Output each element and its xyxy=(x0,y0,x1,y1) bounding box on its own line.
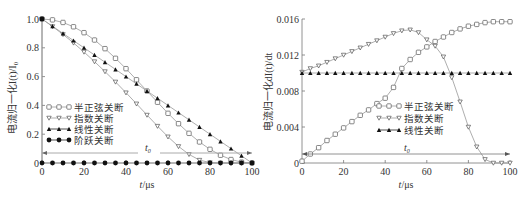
legend-label: 线性关断 xyxy=(74,124,114,135)
data-point-marker xyxy=(197,125,201,129)
data-point-marker xyxy=(239,161,244,166)
right-x-axis-label: t/μs xyxy=(399,179,414,190)
data-point-marker xyxy=(40,161,45,166)
data-point-marker xyxy=(441,55,445,59)
x-tick-label: 100 xyxy=(503,166,518,177)
data-point-marker xyxy=(366,108,370,112)
y-tick-label: 0.2 xyxy=(27,129,40,140)
data-point-marker xyxy=(450,30,454,34)
x-tick-label: 60 xyxy=(422,166,432,177)
legend-label: 指数关断 xyxy=(404,113,444,124)
data-point-marker xyxy=(218,161,223,166)
data-point-marker xyxy=(416,50,420,54)
data-point-marker xyxy=(155,100,159,104)
data-point-marker xyxy=(218,139,222,143)
x-tick-label: 0 xyxy=(300,166,305,177)
data-point-marker xyxy=(103,161,108,166)
data-point-marker xyxy=(57,138,62,143)
x-tick-label: 40 xyxy=(380,166,390,177)
data-point-marker xyxy=(197,161,202,166)
right-x-ticks: 020406080100 xyxy=(300,160,518,177)
data-point-marker xyxy=(450,76,454,80)
data-point-marker xyxy=(82,30,86,34)
data-point-marker xyxy=(441,35,445,39)
data-point-marker xyxy=(333,132,337,136)
right-t0-label: t0 xyxy=(404,142,410,154)
data-point-marker xyxy=(103,46,107,50)
y-tick-label: 0.016 xyxy=(277,14,300,25)
data-point-marker xyxy=(316,146,320,150)
left-y-axis-label: 电流归一化I(t)/I0 xyxy=(6,61,20,134)
right-legend: 半正弦关断指数关断线性关断 xyxy=(377,101,454,136)
data-point-marker xyxy=(50,161,55,166)
left-x-axis-label: t/μs xyxy=(140,179,155,190)
right-y-axis-label: 电流归一化dI(t)/dt xyxy=(262,53,275,132)
data-point-marker xyxy=(197,140,201,144)
data-point-marker xyxy=(145,161,150,166)
right-chart: 00.0040.0080.0120.016 020406080100 t0 半正… xyxy=(262,14,518,191)
data-point-marker xyxy=(124,66,128,70)
data-point-marker xyxy=(124,161,129,166)
data-point-marker xyxy=(103,60,107,64)
series-filled-triangle xyxy=(300,71,512,75)
legend-item: 指数关断 xyxy=(377,113,444,124)
data-point-marker xyxy=(113,67,117,71)
y-tick-label: 0 xyxy=(294,158,299,169)
data-point-marker xyxy=(176,161,181,166)
data-point-marker xyxy=(166,161,171,166)
legend-item: 阶跃关断 xyxy=(47,135,114,146)
x-tick-label: 80 xyxy=(463,166,473,177)
data-point-marker xyxy=(71,25,75,29)
data-point-marker xyxy=(308,67,312,71)
data-point-marker xyxy=(387,104,391,108)
data-point-marker xyxy=(383,35,387,39)
data-point-marker xyxy=(391,32,395,36)
y-tick-label: 0.004 xyxy=(277,122,300,133)
data-point-marker xyxy=(358,113,362,117)
legend-label: 阶跃关断 xyxy=(74,135,114,146)
data-point-marker xyxy=(325,138,329,142)
legend-item: 半正弦关断 xyxy=(377,101,454,112)
data-point-marker xyxy=(92,38,96,42)
y-tick-label: 0.8 xyxy=(27,42,40,53)
data-point-marker xyxy=(483,158,487,162)
data-point-marker xyxy=(67,138,72,143)
y-tick-label: 0.6 xyxy=(27,71,40,82)
data-point-marker xyxy=(458,27,462,31)
data-point-marker xyxy=(300,159,304,163)
data-point-marker xyxy=(433,39,437,43)
right-y-ticks: 00.0040.0080.0120.016 xyxy=(277,14,306,169)
data-point-marker xyxy=(491,20,495,24)
data-point-marker xyxy=(67,105,71,109)
data-point-marker xyxy=(229,161,234,166)
data-point-marker xyxy=(47,138,52,143)
data-point-marker xyxy=(47,105,51,109)
data-point-marker xyxy=(208,147,212,151)
data-point-marker xyxy=(176,121,180,125)
data-point-marker xyxy=(397,104,401,108)
data-point-marker xyxy=(50,18,54,22)
data-point-marker xyxy=(208,132,212,136)
left-legend: 半正弦关断指数关断线性关断阶跃关断 xyxy=(47,102,124,146)
legend-item: 线性关断 xyxy=(377,125,444,136)
figure: 00.20.40.60.81.0 020406080100 t0 半正弦关断指数… xyxy=(0,0,530,198)
data-point-marker xyxy=(366,42,370,46)
data-point-marker xyxy=(187,161,192,166)
y-tick-label: 0.4 xyxy=(27,100,40,111)
data-point-marker xyxy=(166,103,170,107)
data-point-marker xyxy=(208,161,213,166)
data-point-marker xyxy=(408,57,412,61)
data-point-marker xyxy=(61,161,66,166)
y-tick-label: 0.008 xyxy=(277,86,300,97)
x-tick-label: 20 xyxy=(79,166,89,177)
data-point-marker xyxy=(425,45,429,49)
data-point-marker xyxy=(229,146,233,150)
data-point-marker xyxy=(377,104,381,108)
data-point-marker xyxy=(113,56,117,60)
data-point-marker xyxy=(458,100,462,104)
data-point-marker xyxy=(350,50,354,54)
data-point-marker xyxy=(155,161,160,166)
data-point-marker xyxy=(155,96,159,100)
data-point-marker xyxy=(499,20,503,24)
legend-label: 半正弦关断 xyxy=(404,101,454,112)
